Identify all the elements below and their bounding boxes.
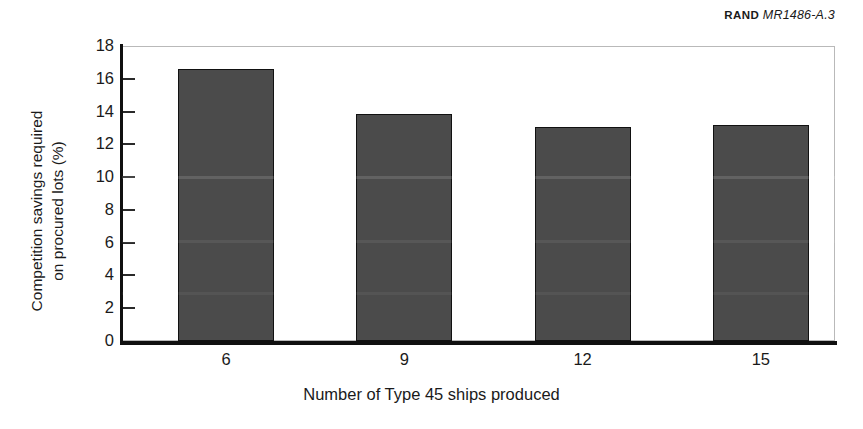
x-axis-tick-label: 12 [523, 350, 643, 368]
y-axis-tick-label: 2 [78, 299, 114, 316]
y-axis-tick-label: 10 [78, 168, 114, 185]
y-axis-line [120, 44, 123, 343]
y-axis-tick-label: 8 [78, 201, 114, 218]
publication-id: MR1486-A.3 [763, 8, 835, 22]
y-axis-tick-label: 0 [78, 332, 114, 349]
figure: RAND MR1486-A.3 Competition savings requ… [0, 0, 863, 429]
bar [356, 114, 452, 341]
bar [535, 127, 631, 341]
y-axis-tick-label: 14 [78, 103, 114, 120]
y-axis-tick-label: 4 [78, 266, 114, 283]
y-axis-title: Competition savings required on procured… [26, 51, 68, 371]
x-axis-tick-label: 15 [701, 350, 821, 368]
x-axis-tick-label: 9 [344, 350, 464, 368]
y-axis-tick-label: 16 [78, 70, 114, 87]
bar [178, 69, 274, 341]
y-axis-tick [123, 78, 135, 80]
rand-logo-text: RAND [724, 9, 759, 21]
y-axis-tick-label: 6 [78, 234, 114, 251]
x-axis-title: Number of Type 45 ships produced [0, 385, 863, 404]
bar [713, 125, 809, 341]
y-axis-tick [123, 307, 135, 309]
y-axis-tick [123, 176, 135, 178]
y-axis-tick [123, 111, 135, 113]
figure-credit: RAND MR1486-A.3 [724, 8, 835, 22]
y-axis-tick-label: 12 [78, 135, 114, 152]
x-axis-line [120, 341, 837, 345]
x-axis-tick-label: 6 [166, 350, 286, 368]
y-axis-tick-label: 18 [78, 37, 114, 54]
y-axis-tick [123, 274, 135, 276]
y-axis-tick [123, 209, 135, 211]
y-axis-tick [123, 242, 135, 244]
y-axis-tick [123, 143, 135, 145]
